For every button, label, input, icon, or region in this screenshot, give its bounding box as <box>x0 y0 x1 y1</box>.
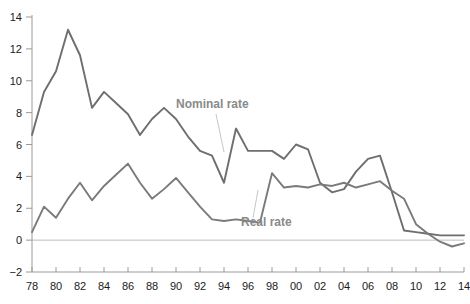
interest-rate-line-chart: −202468101214 78808284868890929496980002… <box>0 0 470 304</box>
y-tick-label: 14 <box>10 11 22 23</box>
real-rate-label: Real rate <box>241 215 292 229</box>
y-axis <box>26 15 32 272</box>
y-tick-label: 0 <box>16 234 22 246</box>
x-tick-label: 98 <box>266 280 278 292</box>
x-tick-label: 90 <box>170 280 182 292</box>
y-tick-label: 8 <box>16 107 22 119</box>
x-tick-label: 12 <box>434 280 446 292</box>
x-tick-label: 96 <box>242 280 254 292</box>
x-tick-label: 84 <box>98 280 110 292</box>
y-tick-label: 6 <box>16 139 22 151</box>
y-tick-label: 4 <box>16 170 22 182</box>
series-line-nominal <box>32 30 464 236</box>
x-axis <box>32 267 464 272</box>
x-tick-label: 14 <box>458 280 470 292</box>
x-tick-label: 02 <box>314 280 326 292</box>
y-tick-label: −2 <box>9 266 22 278</box>
x-tick-label: 80 <box>50 280 62 292</box>
x-tick-label: 88 <box>146 280 158 292</box>
x-tick-label: 92 <box>194 280 206 292</box>
x-tick-label: 78 <box>26 280 38 292</box>
data-series-group <box>32 30 464 247</box>
x-tick-label: 82 <box>74 280 86 292</box>
y-axis-tick-labels: −202468101214 <box>9 11 22 278</box>
y-tick-label: 10 <box>10 75 22 87</box>
x-tick-label: 10 <box>410 280 422 292</box>
nominal-rate-leader-line <box>216 114 224 152</box>
series-line-real <box>32 164 464 247</box>
x-axis-tick-labels: 78808284868890929496980002040608101214 <box>26 280 470 292</box>
chart-plot-area: −202468101214 78808284868890929496980002… <box>0 0 470 304</box>
x-tick-label: 94 <box>218 280 230 292</box>
real-rate-leader-line <box>253 190 258 218</box>
x-tick-label: 86 <box>122 280 134 292</box>
x-tick-label: 06 <box>362 280 374 292</box>
y-tick-label: 12 <box>10 43 22 55</box>
x-tick-label: 00 <box>290 280 302 292</box>
nominal-rate-label: Nominal rate <box>176 97 249 111</box>
x-tick-label: 04 <box>338 280 350 292</box>
series-annotations: Nominal rateReal rate <box>176 97 292 229</box>
x-tick-label: 08 <box>386 280 398 292</box>
y-tick-label: 2 <box>16 202 22 214</box>
